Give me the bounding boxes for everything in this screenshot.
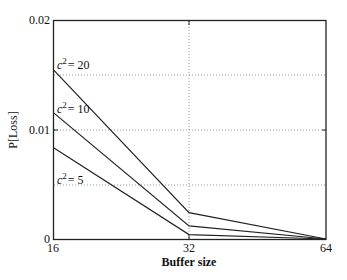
ytick-label: 0.01 <box>29 123 50 137</box>
xtick-label: 32 <box>183 241 195 255</box>
annotation-c2-20: c2= 20 <box>57 56 90 72</box>
ytick-label: 0.02 <box>29 13 50 27</box>
series-line-1 <box>54 113 326 239</box>
annotation-c2-10: c2= 10 <box>57 100 90 116</box>
chart: 0.02 0.01 0 16 32 64 Buffer size P[Loss]… <box>0 0 347 280</box>
series-line-0 <box>54 70 326 239</box>
series-line-2 <box>54 148 326 239</box>
gridlines <box>54 21 326 239</box>
annotation-c2-5: c2= 5 <box>57 171 84 187</box>
series-lines <box>54 70 326 239</box>
xtick-label: 16 <box>47 241 59 255</box>
y-axis-label: P[Loss] <box>6 111 20 148</box>
x-axis-label: Buffer size <box>162 255 217 269</box>
xtick-label: 64 <box>320 241 332 255</box>
